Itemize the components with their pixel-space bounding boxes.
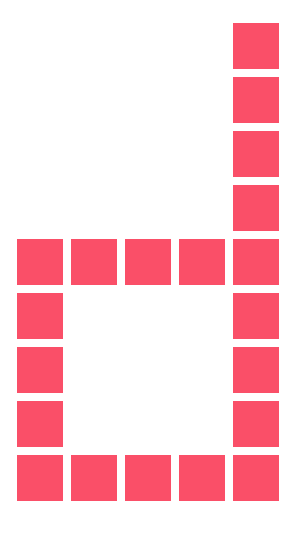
grid-square [17,401,63,447]
grid-square [179,239,225,285]
pixel-art-canvas [0,0,296,534]
grid-square [233,77,279,123]
grid-square [17,455,63,501]
grid-square [17,347,63,393]
grid-square [179,455,225,501]
grid-square [233,23,279,69]
grid-square [17,293,63,339]
grid-square [17,239,63,285]
grid-square [71,239,117,285]
grid-square [125,455,171,501]
grid-square [233,239,279,285]
grid-square [71,455,117,501]
grid-square [233,401,279,447]
grid-square [233,347,279,393]
grid-square [233,131,279,177]
grid-square [233,455,279,501]
grid-square [233,293,279,339]
grid-square [125,239,171,285]
square-grid [0,0,296,534]
grid-square [233,185,279,231]
